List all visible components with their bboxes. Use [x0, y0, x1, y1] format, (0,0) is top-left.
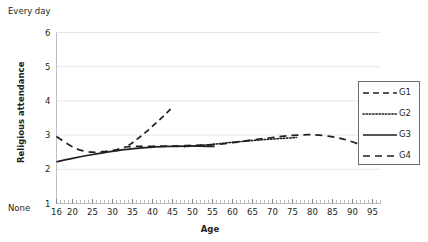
- x-tick-label: 75: [287, 207, 298, 217]
- x-tick-label: 40: [147, 207, 158, 217]
- legend-label: G1: [399, 88, 411, 97]
- gridlines: [57, 33, 381, 204]
- x-axis-title-text: Age: [201, 224, 219, 234]
- x-tick-label: 16: [51, 207, 62, 217]
- x-tick-label: 55: [207, 207, 218, 217]
- legend-line-sample-g1: [362, 88, 398, 98]
- legend-item-g3[interactable]: G3: [359, 124, 421, 145]
- legend-label: G3: [399, 130, 411, 139]
- x-tick-label: 85: [327, 207, 338, 217]
- legend-line-sample-g4: [362, 151, 398, 161]
- x-tick-label: 50: [187, 207, 198, 217]
- x-axis-title: Age: [0, 224, 428, 234]
- x-tick-label: 65: [247, 207, 258, 217]
- legend: G1G2G3G4: [358, 81, 420, 165]
- y-tick-label: 5: [25, 62, 51, 72]
- series-line-g4: [57, 135, 365, 153]
- axis-lines: [57, 33, 381, 204]
- x-tick-label: 90: [347, 207, 358, 217]
- legend-item-g2[interactable]: G2: [359, 103, 421, 124]
- y-axis-top-label: Every day: [8, 7, 51, 16]
- y-axis-title: Religious attendance: [16, 63, 26, 163]
- legend-label: G2: [399, 109, 411, 118]
- y-tick-label: 6: [25, 28, 51, 38]
- legend-label: G4: [399, 151, 411, 160]
- x-tick-label: 20: [67, 207, 78, 217]
- x-tick-label: 70: [267, 207, 278, 217]
- x-tick-label: 95: [367, 207, 378, 217]
- x-tick-label: 35: [127, 207, 138, 217]
- x-tick-marks: [57, 199, 381, 204]
- x-tick-label: 80: [307, 207, 318, 217]
- legend-line-sample-g2: [362, 109, 398, 119]
- legend-item-g1[interactable]: G1: [359, 82, 421, 103]
- series-line-g3: [57, 146, 215, 162]
- x-tick-label: 60: [227, 207, 238, 217]
- legend-line-sample-g3: [362, 130, 398, 140]
- y-tick-label: 3: [25, 130, 51, 140]
- x-tick-label: 45: [167, 207, 178, 217]
- series-line-g1: [129, 109, 171, 145]
- y-tick-label: 4: [25, 96, 51, 106]
- x-tick-label: 25: [87, 207, 98, 217]
- y-tick-label: 1: [25, 199, 51, 209]
- y-tick-label: 2: [25, 164, 51, 174]
- legend-item-g4[interactable]: G4: [359, 145, 421, 166]
- religious-attendance-chart: Every day Religious attendance None Age …: [0, 0, 428, 242]
- x-tick-label: 30: [107, 207, 118, 217]
